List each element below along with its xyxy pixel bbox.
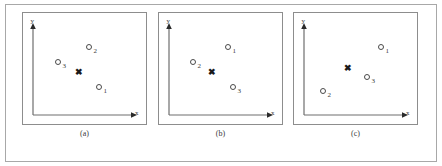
panel-a-point-o3-label: 3 [63,63,67,70]
panel-c-centroid-marker: ✖ [343,64,352,73]
circle-marker-icon [378,44,384,50]
circle-marker-icon [190,59,196,65]
centroid-x-icon: ✖ [207,68,216,77]
circle-marker-icon [96,84,102,90]
panel-a-point-o2-label: 2 [94,48,98,55]
panel-b-point-o2-label: 2 [198,63,202,70]
circle-marker-icon [230,84,236,90]
panel-b-plot-area: y x 1 2 3 ✖ [158,12,283,125]
panel-b-y-axis-label: y [167,18,171,25]
panel-c-point-o2: 2 [320,88,331,99]
panel-c-plot-area: y x 1 2 3 ✖ [293,12,418,125]
figure-container: y x 1 2 3 ✖ [0,0,442,166]
panel-a-point-o3: 3 [55,59,66,70]
centroid-x-icon: ✖ [74,68,83,77]
panel-b-point-o2: 2 [190,59,201,70]
circle-marker-icon [364,74,370,80]
panel-c-y-axis-label: y [302,18,306,25]
panel-c: y x 1 2 3 ✖ [293,12,418,125]
panel-b: y x 1 2 3 ✖ [158,12,283,125]
panel-a-point-o1: 1 [96,84,107,95]
panel-b-x-axis-label: x [271,110,275,117]
panel-a-centroid-marker: ✖ [74,68,83,77]
panel-c-point-o3: 3 [364,74,375,85]
panel-c-x-axis-label: x [406,110,410,117]
panel-a-plot-area: y x 1 2 3 ✖ [22,12,147,125]
panel-group: y x 1 2 3 ✖ [0,0,442,166]
panel-a-axes [22,12,147,125]
panel-a-point-o2: 2 [86,44,97,55]
panel-a-caption: (a) [22,129,147,138]
panel-b-point-o1-label: 1 [233,48,237,55]
centroid-x-icon: ✖ [343,64,352,73]
panel-c-point-o1-label: 1 [386,48,390,55]
circle-marker-icon [55,59,61,65]
circle-marker-icon [86,44,92,50]
panel-b-point-o3-label: 3 [238,88,242,95]
circle-marker-icon [225,44,231,50]
panel-a-x-axis-label: x [135,110,139,117]
circle-marker-icon [320,88,326,94]
panel-c-caption: (c) [293,129,418,138]
panel-a-point-o1-label: 1 [104,88,108,95]
panel-c-point-o1: 1 [378,44,389,55]
panel-b-point-o3: 3 [230,84,241,95]
panel-a-y-axis-label: y [31,18,35,25]
panel-c-point-o2-label: 2 [328,92,332,99]
panel-b-caption: (b) [158,129,283,138]
panel-b-axes [158,12,283,125]
panel-b-centroid-marker: ✖ [207,68,216,77]
panel-c-axes [293,12,418,125]
panel-c-point-o3-label: 3 [372,78,376,85]
panel-b-point-o1: 1 [225,44,236,55]
panel-a: y x 1 2 3 ✖ [22,12,147,125]
